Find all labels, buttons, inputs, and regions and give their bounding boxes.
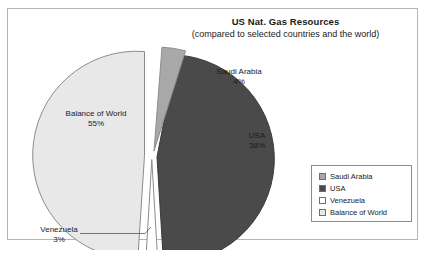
slice-label-saudi-arabia-name: Saudi Arabia: [216, 67, 261, 76]
slice-label-venezuela: Venezuela 3%: [28, 225, 90, 245]
legend-item-saudi-arabia[interactable]: Saudi Arabia: [319, 170, 411, 182]
legend-swatch-balance-of-world: [319, 209, 326, 216]
slice-label-saudi-arabia-value: 4%: [204, 77, 274, 87]
legend-swatch-venezuela: [319, 197, 326, 204]
legend-item-venezuela[interactable]: Venezuela: [319, 194, 411, 206]
slice-label-balance-of-world-value: 55%: [46, 119, 146, 129]
legend-label-venezuela: Venezuela: [330, 196, 365, 205]
legend-item-balance-of-world[interactable]: Balance of World: [319, 206, 411, 218]
chart-legend: Saudi Arabia USA Venezuela Balance of Wo…: [311, 165, 412, 222]
slice-label-venezuela-value: 3%: [28, 235, 90, 245]
legend-label-balance-of-world: Balance of World: [330, 208, 387, 217]
slice-label-balance-of-world: Balance of World 55%: [46, 109, 146, 129]
chart-frame: US Nat. Gas Resources (compared to selec…: [7, 8, 418, 240]
legend-label-saudi-arabia: Saudi Arabia: [330, 172, 373, 181]
legend-label-usa: USA: [330, 184, 345, 193]
slice-label-usa-name: USA: [249, 131, 265, 140]
legend-swatch-usa: [319, 185, 326, 192]
pie-slice-balance-of-world[interactable]: [33, 51, 145, 250]
slice-label-usa: USA 38%: [236, 131, 278, 151]
slice-label-saudi-arabia: Saudi Arabia 4%: [204, 67, 274, 87]
page-title: US Nat. Gas Resources: [158, 15, 413, 28]
slice-label-usa-value: 38%: [236, 141, 278, 151]
slice-label-balance-of-world-name: Balance of World: [66, 109, 127, 118]
legend-item-usa[interactable]: USA: [319, 182, 411, 194]
slice-label-venezuela-name: Venezuela: [40, 225, 77, 234]
legend-swatch-saudi-arabia: [319, 173, 326, 180]
pie-slice-venezuela[interactable]: [146, 160, 158, 251]
